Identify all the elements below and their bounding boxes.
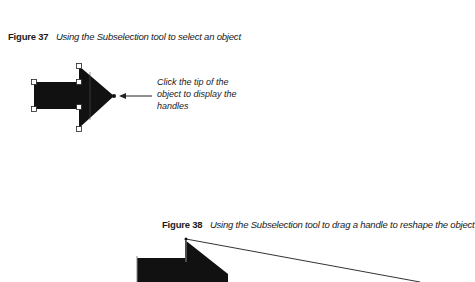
figure-38-caption-text: Using the Subselection tool to drag a ha… — [210, 219, 475, 230]
figure-38-caption: Figure 38 Using the Subselection tool to… — [162, 219, 475, 230]
arrow-shape-icon — [34, 66, 114, 128]
figure-38-label: Figure 38 — [162, 219, 202, 230]
tip-point — [112, 94, 116, 98]
figure-37-illustration — [0, 0, 475, 282]
reshaped-arrow-icon — [137, 238, 420, 282]
callout-arrow-icon — [119, 93, 152, 99]
figure-37-callout: Click the tip of the object to display t… — [157, 76, 237, 112]
